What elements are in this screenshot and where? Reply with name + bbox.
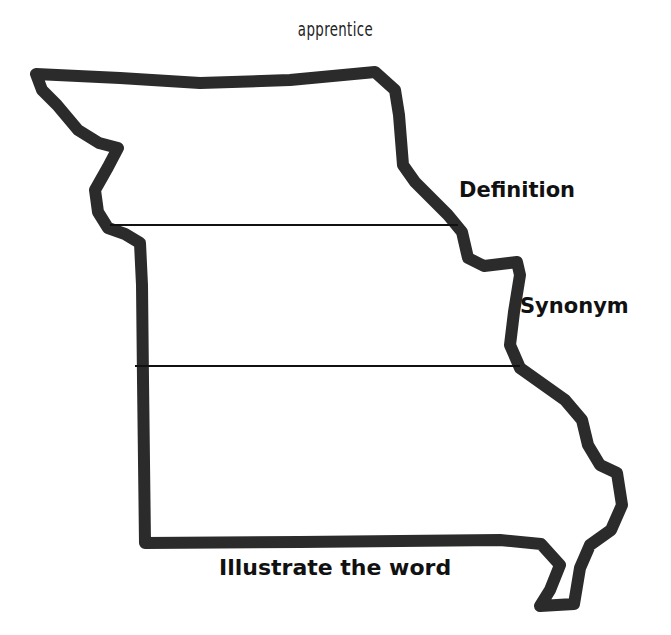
definition-label: Definition — [459, 178, 575, 202]
synonym-label: Synonym — [520, 294, 629, 318]
illustrate-label: Illustrate the word — [219, 555, 451, 580]
state-outline — [36, 72, 622, 606]
